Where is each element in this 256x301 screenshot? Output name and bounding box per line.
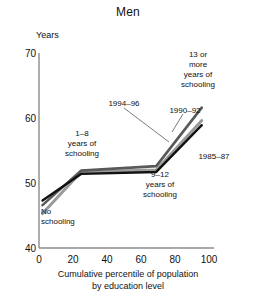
annotation-no-schooling: No schooling (41, 207, 75, 227)
x-axis-label-line1: Cumulative percentile of population (0, 268, 256, 280)
chart-container: Men Years 70 60 50 40 0 20 40 60 80 100 … (0, 0, 256, 301)
x-axis-label-line2: by education level (0, 280, 256, 292)
annotation-13-or-more-years: 13 or more years of schooling (168, 50, 228, 90)
x-axis-label: Cumulative percentile of population by e… (0, 268, 256, 292)
series-label-1985-87: 1985–87 (191, 152, 237, 162)
annotation-no-schooling-line1: No (41, 207, 75, 217)
leader-line-1990-92 (172, 114, 183, 132)
annotation-9-12-years-line3: schooling (130, 190, 190, 200)
annotation-1-8-years-line1: 1–8 (52, 129, 112, 139)
series-label-1990-92: 1990–92 (162, 106, 208, 116)
annotation-1-8-years: 1–8 years of schooling (52, 129, 112, 159)
annotation-13-or-more-line3: years of (168, 70, 228, 80)
series-label-1994-96: 1994–96 (99, 99, 149, 109)
annotation-13-or-more-line1: 13 or (168, 50, 228, 60)
plot-area (0, 0, 256, 301)
annotation-9-12-years: 9–12 years of schooling (130, 170, 190, 200)
annotation-no-schooling-line2: schooling (41, 217, 75, 227)
annotation-9-12-years-line1: 9–12 (130, 170, 190, 180)
annotation-1-8-years-line3: schooling (52, 149, 112, 159)
annotation-13-or-more-line4: schooling (168, 80, 228, 90)
annotation-1-8-years-line2: years of (52, 139, 112, 149)
annotation-9-12-years-line2: years of (130, 180, 190, 190)
annotation-13-or-more-line2: more (168, 60, 228, 70)
